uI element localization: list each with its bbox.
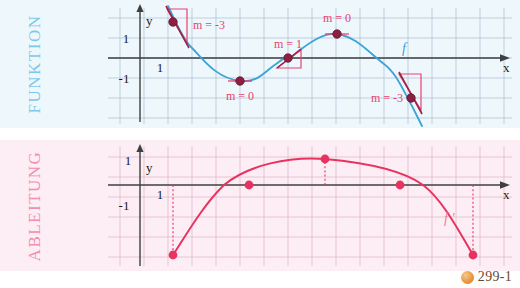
function-y-axis — [136, 4, 143, 122]
derivative-plot: y x 1 -1 1 f ' — [0, 140, 520, 271]
badge-label: 299-1 — [478, 269, 512, 285]
derivative-grid-horizontal — [108, 157, 512, 257]
slope-label-1: m = 0 — [226, 89, 254, 103]
derivative-x-axis-label: x — [503, 187, 510, 202]
derivative-panel: ABLEITUNG — [0, 140, 520, 271]
function-x-axis-label: x — [503, 60, 510, 75]
derivative-points — [169, 155, 478, 260]
slope-label-4: m = -3 — [371, 91, 403, 105]
page-reference-badge: 299-1 — [461, 269, 512, 285]
derivative-x-tick-unit: 1 — [157, 187, 164, 202]
slope-label-0: m = -3 — [193, 18, 225, 32]
function-x-tick-unit: 1 — [157, 60, 164, 75]
function-plot: y x 1 -1 1 f — [0, 0, 520, 128]
derivative-y-axis-label: y — [146, 160, 153, 175]
figure-page: FUNKTION — [0, 0, 520, 288]
derivative-curve — [173, 158, 473, 255]
tangent-line-left — [166, 6, 189, 48]
derivative-y-axis — [136, 144, 143, 266]
function-y-tick-pos1: 1 — [123, 31, 130, 46]
derivative-y-tick-pos1: 1 — [125, 153, 132, 168]
function-y-tick-neg1: -1 — [119, 71, 130, 86]
slope-label-3: m = 0 — [323, 11, 351, 25]
function-panel: FUNKTION — [0, 0, 520, 128]
slope-label-2: m = 1 — [274, 37, 302, 51]
function-curve-label: f — [402, 41, 408, 56]
function-y-axis-label: y — [146, 13, 153, 28]
orange-circle-icon — [461, 271, 474, 284]
derivative-y-tick-neg1: -1 — [119, 198, 130, 213]
derivative-dashed-guides — [173, 159, 473, 255]
derivative-curve-label: f ' — [444, 211, 455, 226]
function-grid-horizontal — [108, 18, 512, 118]
